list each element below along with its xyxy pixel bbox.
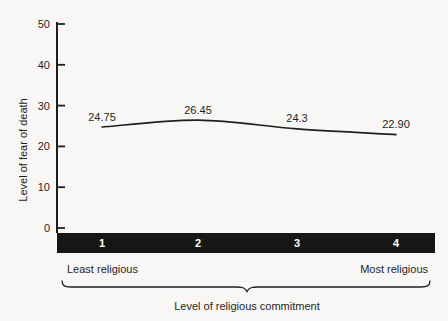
- y-tick-label: 20: [38, 140, 50, 152]
- chart-canvas: 01020304050 Level of fear of death 24.75…: [0, 0, 448, 321]
- most-religious-label: Most religious: [360, 263, 428, 275]
- data-point-label: 22.90: [382, 118, 410, 130]
- y-axis-title: Level of fear of death: [17, 98, 29, 201]
- y-tick-label: 10: [38, 181, 50, 193]
- y-tick-label: 50: [38, 18, 50, 30]
- category-bar: 1234: [57, 233, 435, 253]
- data-point-label: 24.75: [88, 111, 116, 123]
- category-number: 4: [393, 237, 400, 249]
- fear-of-death-figure: 01020304050 Level of fear of death 24.75…: [0, 0, 448, 321]
- least-religious-label: Least religious: [67, 263, 138, 275]
- category-number: 3: [294, 237, 300, 249]
- brace: [62, 281, 430, 292]
- y-tick-label: 30: [38, 100, 50, 112]
- category-number: 2: [195, 237, 201, 249]
- data-line: [102, 120, 396, 135]
- y-axis: 01020304050 Level of fear of death: [17, 18, 65, 234]
- category-number: 1: [99, 237, 105, 249]
- point-labels: 24.7526.4524.322.90: [88, 104, 410, 131]
- data-point-label: 26.45: [184, 104, 212, 116]
- y-tick-label: 40: [38, 59, 50, 71]
- x-axis-group-label: Level of religious commitment: [174, 300, 320, 312]
- data-point-label: 24.3: [286, 112, 307, 124]
- y-tick-label: 0: [44, 222, 50, 234]
- y-axis-ticks: 01020304050: [38, 18, 65, 234]
- category-bar-rect: [57, 233, 435, 253]
